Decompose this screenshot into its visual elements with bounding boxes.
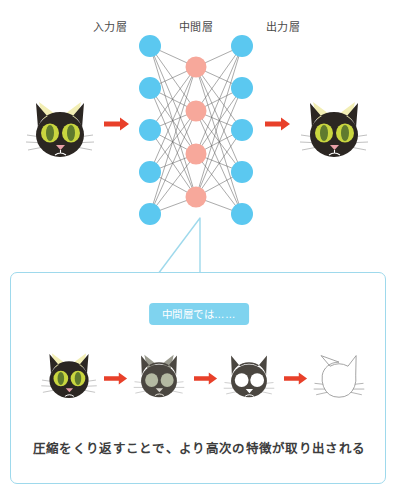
arrow-network-to-output [265,116,291,136]
pupil-right [341,125,349,141]
callout-caption: 圧縮をくり返すことで、より高次の特徴が取り出される [0,438,398,457]
cat-full-detail [38,345,100,411]
cat-input-image [22,92,98,172]
arrow-input-to-network [104,116,130,136]
pupil-left [58,372,65,385]
cat-outline [308,345,370,411]
neural-network-diagram [128,34,264,226]
pointer-shape [158,218,200,274]
cat-output-image [296,92,372,172]
eye-right [250,373,264,387]
cat-head-outline [321,356,356,398]
cat-desaturated [128,345,190,411]
cat-silhouette [218,345,280,411]
label-hidden-layer: 中間層 [179,18,214,34]
eye-left [235,373,249,387]
cat-compression-sequence [0,345,398,411]
hidden-layer-nodes [186,57,207,208]
callout-pointer [156,216,228,276]
arrow-step-2 [194,371,218,390]
eye-left [145,373,158,387]
arrow-step-3 [284,371,308,390]
pupil-left [320,125,328,141]
pupil-right [67,125,75,141]
label-input-layer: 入力層 [93,18,128,34]
eye-right [161,373,174,387]
pupil-left [46,125,54,141]
pupil-right [75,372,82,385]
label-output-layer: 出力層 [266,18,301,34]
arrow-step-1 [104,371,128,390]
hidden-layer-badge: 中間層では…… [149,303,249,325]
